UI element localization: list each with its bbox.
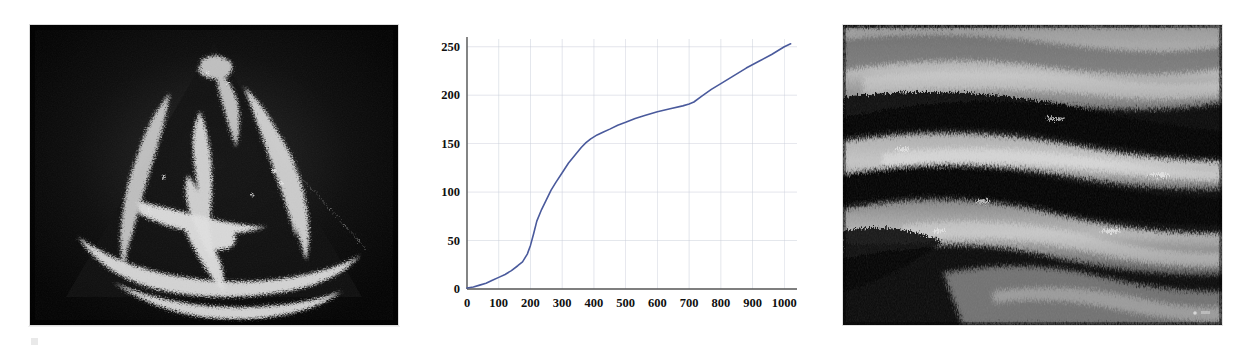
chart-x-tick-label: 800 bbox=[711, 296, 730, 310]
chart-y-tick-label: 200 bbox=[441, 88, 460, 102]
page-hairline bbox=[28, 326, 400, 327]
chart-y-tick-label: 50 bbox=[448, 234, 461, 248]
chart-x-tick-label: 200 bbox=[521, 296, 540, 310]
chart-x-tick-label: 400 bbox=[585, 296, 604, 310]
vascular-ultrasound-canvas bbox=[843, 25, 1222, 325]
chart-x-tick-label: 0 bbox=[464, 296, 470, 310]
chart-y-tick-label: 250 bbox=[441, 40, 460, 54]
chart-series-line bbox=[467, 44, 791, 288]
chart-y-tick-label: 0 bbox=[454, 282, 460, 296]
chart-x-tick-label: 500 bbox=[616, 296, 635, 310]
figure-row: 0501001502002500100200300400500600700800… bbox=[0, 0, 1235, 350]
echocardiogram-canvas bbox=[30, 25, 398, 325]
chart-x-tick-label: 900 bbox=[743, 296, 762, 310]
cardiac-echocardiogram-image bbox=[30, 25, 398, 325]
cumulative-curve-chart: 0501001502002500100200300400500600700800… bbox=[425, 25, 805, 325]
chart-svg: 0501001502002500100200300400500600700800… bbox=[425, 25, 805, 325]
vascular-ultrasound-image bbox=[843, 25, 1222, 325]
chart-x-tick-label: 700 bbox=[680, 296, 699, 310]
chart-y-tick-label: 100 bbox=[441, 185, 460, 199]
chart-x-tick-label: 600 bbox=[648, 296, 667, 310]
chart-x-tick-label: 100 bbox=[489, 296, 508, 310]
chart-y-tick-label: 150 bbox=[441, 137, 460, 151]
chart-x-tick-label: 1000 bbox=[772, 296, 797, 310]
page-artifact bbox=[31, 338, 38, 345]
chart-x-tick-label: 300 bbox=[553, 296, 572, 310]
